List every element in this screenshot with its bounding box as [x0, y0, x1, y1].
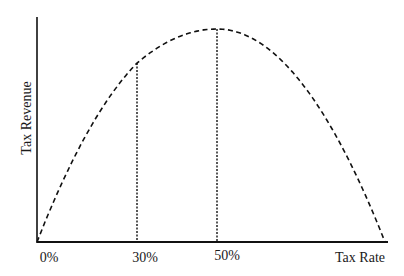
laffer-curve-chart: Tax Revenue Tax Rate 0% 30% 50% — [0, 0, 404, 276]
reference-lines — [137, 29, 217, 242]
x-tick-label-50: 50% — [214, 248, 240, 263]
curve-group — [37, 29, 385, 242]
x-tick-label-0: 0% — [40, 250, 59, 265]
y-axis-label: Tax Revenue — [19, 81, 34, 154]
labels-group: Tax Revenue Tax Rate 0% 30% 50% — [19, 81, 385, 265]
x-axis-label: Tax Rate — [335, 250, 385, 265]
series-line-0 — [37, 29, 385, 242]
x-tick-label-30: 30% — [132, 250, 158, 265]
